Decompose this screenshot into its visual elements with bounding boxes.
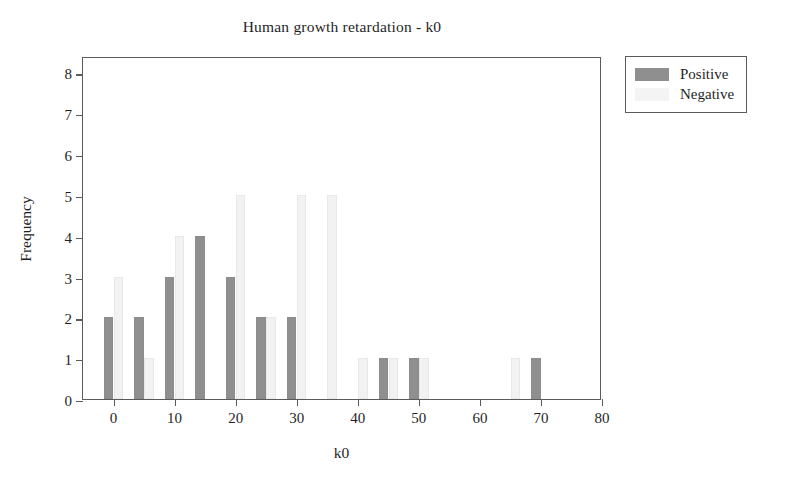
x-tick-mark	[602, 399, 603, 406]
bar-positive-25	[256, 317, 266, 399]
bar-negative-20	[236, 195, 246, 399]
bar-positive-50	[409, 358, 419, 399]
x-tick-mark	[114, 399, 115, 406]
y-tick-mark	[76, 319, 83, 320]
bar-negative-40	[358, 358, 368, 399]
x-tick-label: 70	[533, 410, 548, 427]
x-tick-mark	[297, 399, 298, 406]
bar-positive-0	[104, 317, 114, 399]
legend-label: Negative	[680, 87, 734, 102]
y-tick-mark	[76, 74, 83, 75]
bar-negative-5	[144, 358, 154, 399]
bar-negative-50	[419, 358, 429, 399]
y-tick-label: 0	[65, 394, 73, 409]
bar-negative-25	[266, 317, 276, 399]
x-tick-mark	[236, 399, 237, 406]
bar-positive-30	[287, 317, 297, 399]
y-axis-label: Frequency	[17, 196, 35, 261]
y-tick-label: 2	[65, 312, 73, 327]
x-tick-mark	[541, 399, 542, 406]
bar-positive-5	[134, 317, 144, 399]
bar-negative-35	[327, 195, 337, 399]
legend-item-negative[interactable]: Negative	[635, 84, 734, 104]
y-tick-label: 5	[65, 189, 73, 204]
x-tick-label: 80	[595, 410, 610, 427]
x-tick-mark	[419, 399, 420, 406]
y-tick-label: 6	[65, 149, 73, 164]
legend-swatch-negative	[635, 88, 669, 101]
y-tick-label: 1	[65, 353, 73, 368]
bar-negative-0	[114, 277, 124, 400]
legend-label: Positive	[680, 67, 728, 82]
x-tick-label: 40	[350, 410, 365, 427]
y-tick-mark	[76, 238, 83, 239]
x-axis-label: k0	[82, 444, 601, 462]
y-tick-mark	[76, 401, 83, 402]
chart-figure: Human growth retardation - k0 Frequency …	[0, 0, 799, 496]
y-tick-label: 7	[65, 108, 73, 123]
y-tick-mark	[76, 279, 83, 280]
x-tick-label: 50	[411, 410, 426, 427]
x-tick-label: 60	[472, 410, 487, 427]
y-tick-mark	[76, 156, 83, 157]
bar-negative-30	[297, 195, 307, 399]
y-tick-mark	[76, 115, 83, 116]
chart-title: Human growth retardation - k0	[82, 18, 602, 36]
bar-positive-45	[379, 358, 389, 399]
legend-swatch-positive	[635, 68, 669, 81]
chart-legend: PositiveNegative	[625, 56, 747, 113]
x-tick-label: 10	[167, 410, 182, 427]
bar-negative-45	[389, 358, 399, 399]
y-tick-label: 4	[65, 230, 73, 245]
y-axis-label-container: Frequency	[26, 57, 27, 400]
bar-positive-20	[226, 277, 236, 400]
x-tick-label: 20	[228, 410, 243, 427]
x-tick-label: 30	[289, 410, 304, 427]
bar-positive-10	[165, 277, 175, 400]
x-tick-mark	[175, 399, 176, 406]
x-tick-mark	[480, 399, 481, 406]
bar-negative-65	[511, 358, 521, 399]
y-tick-label: 8	[65, 67, 73, 82]
legend-item-positive[interactable]: Positive	[635, 64, 734, 84]
y-tick-mark	[76, 360, 83, 361]
plot-inner: 012345678 01020304050607080	[83, 58, 600, 399]
x-tick-label: 0	[110, 410, 118, 427]
bar-positive-15	[195, 236, 205, 399]
y-tick-label: 3	[65, 271, 73, 286]
bar-positive-70	[531, 358, 541, 399]
y-tick-mark	[76, 197, 83, 198]
bar-negative-10	[175, 236, 185, 399]
x-tick-mark	[358, 399, 359, 406]
plot-area: 012345678 01020304050607080	[82, 57, 601, 400]
